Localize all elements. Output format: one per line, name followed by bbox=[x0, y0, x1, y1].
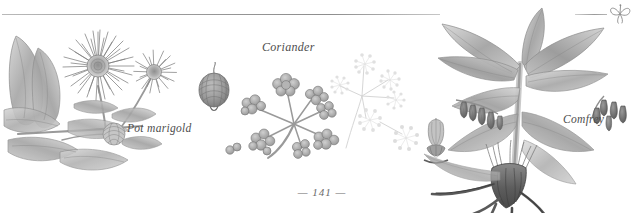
label-comfrey: Comfrey bbox=[563, 113, 604, 125]
page-number: — 141 — bbox=[0, 186, 644, 198]
label-coriander: Coriander bbox=[262, 40, 315, 55]
pot-marigold-illustration-icon bbox=[2, 14, 198, 182]
coriander-illustration-icon bbox=[190, 52, 436, 170]
book-page: Pot marigold Coriander Comfrey — 141 — bbox=[0, 0, 644, 213]
label-pot-marigold: Pot marigold bbox=[127, 122, 192, 134]
comfrey-illustration-icon bbox=[408, 4, 640, 209]
